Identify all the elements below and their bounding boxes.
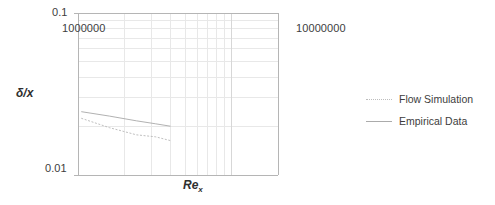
x-axis-title-subscript: x	[198, 185, 202, 194]
x-axis-title-text: Re	[183, 178, 198, 192]
chart-container: 0.1 0.01 1000000 10000000 δ/x Rex Flow S…	[0, 0, 495, 205]
chart-legend: Flow Simulation Empirical Data	[366, 88, 494, 132]
legend-item-flow-simulation: Flow Simulation	[366, 88, 494, 110]
data-series-empirical-data	[81, 112, 170, 127]
y-axis-min-tick-label: 0.01	[45, 162, 67, 174]
legend-label-empirical-data: Empirical Data	[399, 115, 467, 127]
data-series-flow-simulation	[81, 118, 170, 140]
x-axis-min-tick-label: 1000000	[62, 22, 106, 34]
legend-swatch-empirical-data	[366, 121, 392, 122]
y-axis-title: δ/x	[16, 86, 33, 100]
major-gridlines	[78, 13, 278, 175]
legend-label-flow-simulation: Flow Simulation	[399, 93, 473, 105]
x-axis-title: Rex	[183, 178, 203, 194]
axis-lines	[74, 13, 278, 175]
minor-gridlines	[78, 13, 278, 175]
legend-swatch-flow-simulation	[366, 99, 392, 100]
x-axis-max-tick-label: 10000000	[296, 22, 346, 34]
legend-item-empirical-data: Empirical Data	[366, 110, 494, 132]
y-axis-max-tick-label: 0.1	[52, 6, 68, 18]
